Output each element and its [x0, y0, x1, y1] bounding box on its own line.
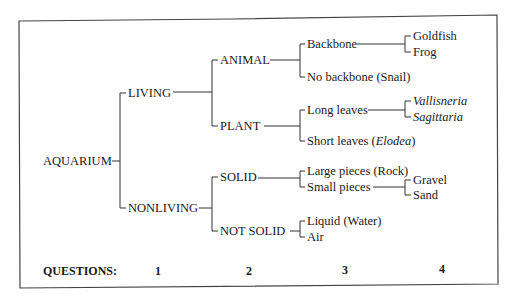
- node-plant: PLANT: [220, 119, 261, 133]
- node-frog: Frog: [413, 45, 437, 59]
- node-goldfish: Goldfish: [413, 29, 458, 43]
- node-air: Air: [307, 230, 325, 244]
- node-short-leaves: Short leaves (Elodea): [307, 134, 415, 148]
- short-leaves-elodea: Elodea: [375, 134, 411, 148]
- node-living: LIVING: [128, 86, 171, 100]
- node-no-backbone: No backbone (Snail): [307, 70, 410, 84]
- question-number-3: 3: [342, 263, 348, 277]
- short-leaves-suffix: ): [411, 134, 415, 148]
- node-large-pieces: Large pieces (Rock): [307, 164, 408, 178]
- node-nonliving: NONLIVING: [128, 201, 198, 215]
- question-number-4: 4: [439, 262, 445, 276]
- node-aquarium: AQUARIUM: [43, 154, 112, 168]
- question-number-2: 2: [246, 264, 252, 278]
- node-liquid: Liquid (Water): [307, 214, 381, 228]
- short-leaves-prefix: Short leaves (: [307, 134, 376, 148]
- node-not-solid: NOT SOLID: [220, 224, 285, 238]
- node-backbone: Backbone: [307, 37, 357, 51]
- node-sagittaria: Sagittaria: [413, 110, 463, 124]
- node-solid: SOLID: [220, 170, 257, 184]
- aquarium-classification-diagram: AQUARIUM LIVING ANIMAL Backbone Goldfish…: [0, 0, 514, 303]
- node-long-leaves: Long leaves: [307, 103, 368, 117]
- question-number-1: 1: [155, 264, 161, 278]
- node-gravel: Gravel: [413, 173, 448, 187]
- node-vallisneria: Vallisneria: [413, 94, 467, 108]
- node-sand: Sand: [413, 188, 439, 202]
- questions-label: QUESTIONS:: [43, 264, 117, 278]
- node-animal: ANIMAL: [220, 53, 270, 67]
- node-small-pieces: Small pieces: [307, 180, 371, 194]
